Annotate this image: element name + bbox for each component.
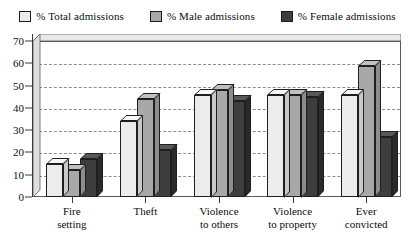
bar-group xyxy=(46,41,104,197)
bar-group xyxy=(120,41,178,197)
x-axis-label-line: convicted xyxy=(345,218,388,231)
x-axis-label-line: to property xyxy=(268,218,317,231)
y-axis-tick-mark xyxy=(25,85,32,86)
bar-side-face xyxy=(245,95,251,197)
x-axis-label-line: Ever xyxy=(345,205,388,218)
bar-side-face xyxy=(392,131,398,197)
bar-side-face xyxy=(284,88,290,197)
bar-chart: % Total admissions % Male admissions % F… xyxy=(0,0,415,244)
x-axis-tick-label: Violenceto others xyxy=(199,205,238,231)
legend-item-total: % Total admissions xyxy=(19,11,124,22)
x-axis-tick-label: Everconvicted xyxy=(345,205,388,231)
x-axis-tick-mark xyxy=(219,197,220,203)
y-axis-tick-mark xyxy=(25,197,32,198)
bar-side-face xyxy=(63,157,69,197)
x-axis-tick-label: Firesetting xyxy=(57,205,86,231)
bar-front-face xyxy=(194,95,211,198)
bar xyxy=(341,95,358,198)
x-axis-label-line: Theft xyxy=(133,205,157,218)
x-axis-label-line: setting xyxy=(57,218,86,231)
x-axis-tick-mark xyxy=(72,197,73,203)
legend-item-female: % Female admissions xyxy=(281,11,396,22)
bar xyxy=(120,121,137,197)
y-axis-tick-mark xyxy=(25,130,32,131)
y-axis-tick-mark xyxy=(25,174,32,175)
y-axis-tick-mark xyxy=(25,41,32,42)
bar-front-face xyxy=(267,95,284,198)
chart-legend: % Total admissions % Male admissions % F… xyxy=(0,6,415,26)
bar-side-face xyxy=(154,93,160,197)
bar-front-face xyxy=(120,121,137,197)
bar-side-face xyxy=(375,59,381,197)
bar xyxy=(46,164,63,197)
y-axis-tick-mark xyxy=(25,152,32,153)
y-axis-tick-label: 10 xyxy=(13,169,24,180)
bar xyxy=(267,95,284,198)
bar-side-face xyxy=(301,88,307,197)
bar-group xyxy=(194,41,252,197)
x-axis-tick-label: Theft xyxy=(133,205,157,218)
legend-swatch-female xyxy=(281,11,293,22)
x-axis-tick-mark xyxy=(145,197,146,203)
x-axis-label-line: to others xyxy=(199,218,238,231)
y-axis: 010203040506070 xyxy=(0,41,33,197)
y-axis-tick-label: 30 xyxy=(13,125,24,136)
legend-swatch-total xyxy=(19,11,31,22)
x-axis-label-line: Fire xyxy=(57,205,86,218)
bar-side-face xyxy=(137,115,143,197)
bar-side-face xyxy=(228,84,234,197)
y-axis-tick-label: 70 xyxy=(13,36,24,47)
x-axis-tick-mark xyxy=(366,197,367,203)
bar-front-face xyxy=(341,95,358,198)
y-axis-tick-label: 40 xyxy=(13,102,24,113)
bar-side-face xyxy=(211,88,217,197)
bar-side-face xyxy=(358,88,364,197)
y-axis-tick-label: 60 xyxy=(13,58,24,69)
legend-label-total: % Total admissions xyxy=(36,11,124,22)
x-axis-tick-mark xyxy=(293,197,294,203)
y-axis-tick-label: 20 xyxy=(13,147,24,158)
bar-groups xyxy=(33,41,401,197)
bar-side-face xyxy=(97,153,103,197)
bar-group xyxy=(267,41,325,197)
bar-side-face xyxy=(171,144,177,197)
y-axis-tick-label: 0 xyxy=(19,192,25,203)
bar-side-face xyxy=(318,91,324,197)
x-axis: FiresettingTheftViolenceto othersViolenc… xyxy=(33,197,401,244)
bar-front-face xyxy=(46,164,63,197)
legend-label-male: % Male admissions xyxy=(167,11,255,22)
bar xyxy=(194,95,211,198)
legend-item-male: % Male admissions xyxy=(150,11,255,22)
y-axis-tick-mark xyxy=(25,63,32,64)
bar-group xyxy=(341,41,399,197)
x-axis-label-line: Violence xyxy=(268,205,317,218)
legend-label-female: % Female admissions xyxy=(298,11,396,22)
x-axis-tick-label: Violenceto property xyxy=(268,205,317,231)
legend-swatch-male xyxy=(150,11,162,22)
y-axis-tick-label: 50 xyxy=(13,80,24,91)
x-axis-label-line: Violence xyxy=(199,205,238,218)
y-axis-tick-mark xyxy=(25,107,32,108)
